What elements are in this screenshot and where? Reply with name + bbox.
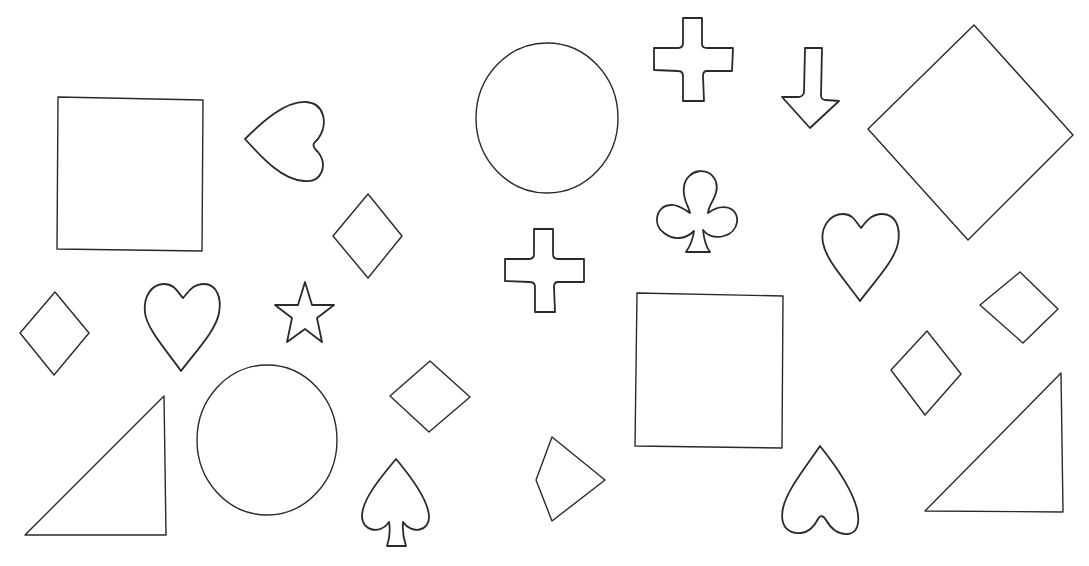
cross-shape (654, 18, 733, 101)
club-shape (657, 171, 737, 252)
spade-shape (362, 459, 429, 546)
circle-shape (197, 365, 337, 515)
diamond-shape (891, 331, 961, 415)
diamond-shape (868, 25, 1073, 240)
diamond-shape (333, 194, 402, 278)
arrow-down-icon (782, 48, 839, 128)
right-triangle-shape (25, 396, 166, 535)
heart-shape (245, 102, 324, 181)
circle-shape (476, 43, 618, 193)
shapes-canvas (0, 0, 1089, 566)
diamond-shape (980, 272, 1058, 343)
right-triangle-shape (925, 373, 1063, 512)
heart-shape (822, 214, 898, 301)
square-shape (635, 293, 783, 448)
diamond-shape (390, 361, 470, 432)
diamond-shape (536, 437, 605, 521)
star-shape (275, 282, 334, 342)
diamond-shape (20, 292, 89, 375)
square-shape (57, 97, 203, 251)
cross-shape (505, 229, 584, 312)
heart-shape (782, 446, 858, 534)
heart-shape (145, 284, 220, 371)
